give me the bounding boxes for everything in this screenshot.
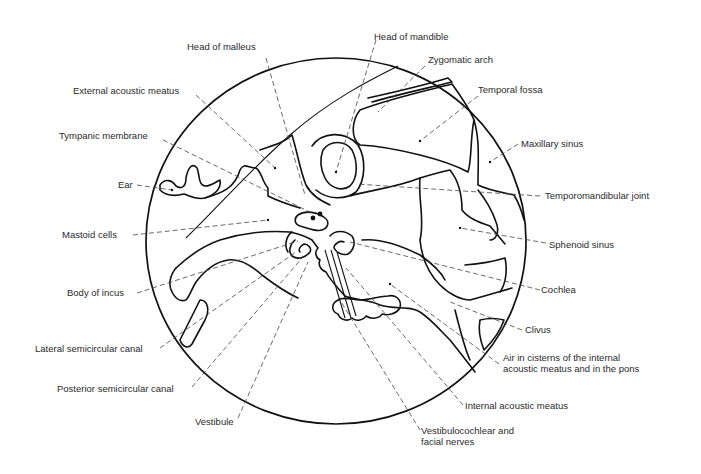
label-internal-acoustic-meatus: Internal acoustic meatus (465, 400, 568, 411)
label-mastoid-cells: Mastoid cells (62, 229, 117, 240)
label-vestibulocochlear-line2: facial nerves (421, 436, 475, 447)
field-circle (146, 58, 526, 424)
label-temporal-fossa: Temporal fossa (478, 84, 543, 95)
label-tympanic-membrane: Tympanic membrane (59, 130, 148, 141)
label-vestibulocochlear-line1: Vestibulocochlear and (421, 425, 514, 436)
label-maxillary-sinus: Maxillary sinus (521, 138, 584, 149)
label-head-of-malleus: Head of malleus (187, 41, 256, 52)
label-lateral-semicircular-canal: Lateral semicircular canal (35, 343, 143, 354)
anatomy-diagram: Head of malleus External acoustic meatus… (0, 0, 701, 474)
label-cochlea: Cochlea (541, 284, 577, 295)
label-external-acoustic-meatus: External acoustic meatus (73, 85, 179, 96)
label-body-of-incus: Body of incus (67, 287, 124, 298)
label-sphenoid-sinus: Sphenoid sinus (549, 239, 614, 250)
label-air-in-cisterns-line2: acoustic meatus and in the pons (503, 363, 640, 374)
label-posterior-semicircular-canal: Posterior semicircular canal (57, 383, 174, 394)
label-zygomatic-arch: Zygomatic arch (428, 54, 493, 65)
label-clivus: Clivus (525, 324, 551, 335)
label-head-of-mandible: Head of mandible (374, 31, 448, 42)
label-ear: Ear (118, 179, 133, 190)
label-temporomandibular-joint: Temporomandibular joint (545, 190, 649, 201)
label-air-in-cisterns-line1: Air in cisterns of the internal (503, 352, 620, 363)
label-vestibule: Vestibule (195, 416, 234, 427)
